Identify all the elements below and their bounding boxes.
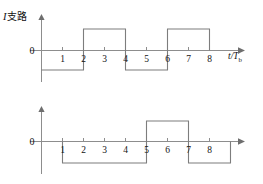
chart-i-branch-y-axis-arrow-icon [38, 14, 44, 20]
chart-i-branch-x-axis-arrow-icon [238, 47, 245, 53]
chart-i-branch: I支路 t/Tb 0 1 [0, 0, 263, 92]
chart-q-branch-tick-label-3: 3 [102, 145, 107, 155]
chart-i-branch-tick-label-4: 4 [123, 54, 128, 64]
chart-q-branch-y-axis-arrow-icon [38, 106, 44, 112]
chart-i-branch-tick-label-2: 2 [81, 54, 86, 64]
chart-q-branch-tick-label-7: 7 [186, 145, 191, 155]
chart-q-branch-ticks [63, 138, 210, 142]
chart-q-branch-x-axis-arrow-icon [238, 138, 245, 144]
figure-container: I支路 t/Tb 0 1 [0, 0, 263, 184]
chart-i-branch-zero-label: 0 [30, 45, 35, 56]
chart-q-branch: Q支路 t/Tb 0 1 [0, 92, 263, 184]
chart-i-branch-tick-label-6: 6 [165, 54, 170, 64]
chart-i-branch-ticks [63, 47, 210, 51]
chart-q-branch-tick-label-5: 5 [144, 145, 149, 155]
chart-q-branch-tick-label-1: 1 [60, 145, 65, 155]
chart-i-branch-tick-label-7: 7 [186, 54, 191, 64]
chart-i-branch-tick-label-3: 3 [102, 54, 107, 64]
chart-q-branch-plot: 0 1 2 3 4 5 6 7 8 [0, 92, 263, 184]
chart-q-branch-tick-label-4: 4 [123, 145, 128, 155]
chart-q-branch-tick-label-8: 8 [207, 145, 212, 155]
chart-q-branch-tick-label-6: 6 [165, 145, 170, 155]
chart-i-branch-plot: 0 1 2 3 4 5 6 7 8 [0, 0, 263, 92]
chart-i-branch-tick-label-5: 5 [144, 54, 149, 64]
chart-i-branch-tick-label-1: 1 [60, 54, 65, 64]
chart-i-branch-tick-label-8: 8 [207, 54, 212, 64]
chart-q-branch-zero-label: 0 [30, 136, 35, 147]
chart-q-branch-tick-label-2: 2 [81, 145, 86, 155]
